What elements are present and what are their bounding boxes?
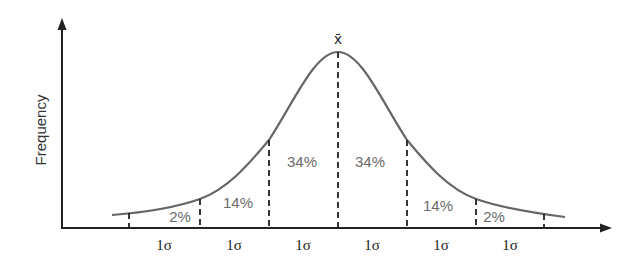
sigma-label-1: 1σ <box>156 237 172 253</box>
y-axis <box>58 18 67 228</box>
region-label-2: 14% <box>223 194 253 211</box>
sigma-label-6: 1σ <box>502 237 518 253</box>
region-label-4: 34% <box>355 153 385 170</box>
region-label-6: 2% <box>483 208 505 225</box>
mean-label: x̄ <box>334 30 342 47</box>
sigma-label-3: 1σ <box>295 237 311 253</box>
x-axis-arrow-icon <box>600 224 612 233</box>
sigma-label-2: 1σ <box>226 237 242 253</box>
region-label-1: 2% <box>169 208 191 225</box>
region-label-5: 14% <box>423 197 453 214</box>
region-label-3: 34% <box>287 153 317 170</box>
y-axis-label: Frequency <box>32 94 49 165</box>
x-axis <box>61 224 612 233</box>
normal-distribution-diagram: x̄ Frequency 2% 14% 34% 34% 14% 2% 1σ 1σ… <box>0 0 643 273</box>
y-axis-arrow-icon <box>58 18 67 30</box>
sigma-label-5: 1σ <box>433 237 449 253</box>
sigma-label-4: 1σ <box>364 237 380 253</box>
